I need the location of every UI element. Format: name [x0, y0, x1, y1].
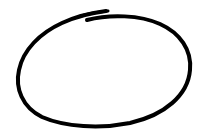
drawing-canvas: [0, 0, 203, 140]
ellipse-stroke: [18, 11, 190, 126]
hand-drawn-ellipse-icon: [0, 0, 203, 140]
